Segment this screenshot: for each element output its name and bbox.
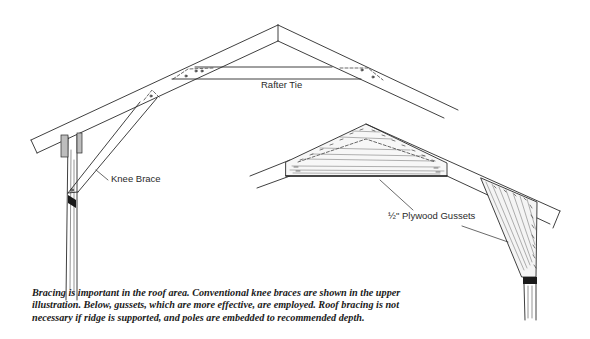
right-post <box>523 277 537 320</box>
caption-line-1: Bracing is important in the roof area. C… <box>32 287 502 299</box>
ridge-gusset <box>286 124 447 176</box>
caption-line-3: necessary if ridge is supported, and pol… <box>32 312 502 324</box>
figure-caption: Bracing is important in the roof area. C… <box>32 287 502 324</box>
eave-gusset <box>481 178 537 277</box>
rafter-tie-label: Rafter Tie <box>261 79 302 90</box>
caption-line-2: illustration. Below, gussets, which are … <box>32 299 502 311</box>
knee-brace-label: Knee Brace <box>111 173 161 184</box>
plywood-gussets-label: ½" Plywood Gussets <box>388 210 475 221</box>
left-post <box>61 133 82 300</box>
